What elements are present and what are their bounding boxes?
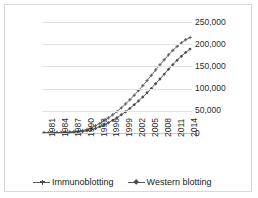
x-axis-tick-label: 2011 bbox=[177, 119, 186, 137]
legend-item-immunoblotting[interactable]: Immunoblotting bbox=[33, 177, 114, 187]
legend-item-western-blotting[interactable]: Western blotting bbox=[128, 177, 212, 187]
x-axis-tick-label: 1984 bbox=[61, 118, 70, 137]
gridline bbox=[42, 22, 192, 23]
x-axis-tick-label: 1987 bbox=[74, 118, 83, 137]
x-axis-tick-label: 1999 bbox=[125, 118, 134, 137]
y-axis-tick-label: 100,000 bbox=[195, 84, 226, 93]
x-axis-tick-label: 2005 bbox=[151, 118, 160, 137]
x-axis-tick-label: 1996 bbox=[112, 118, 121, 137]
x-axis-tick-label: 2014 bbox=[190, 118, 199, 137]
y-axis-tick-labels: 050,000100,000150,000200,000250,000 bbox=[195, 5, 255, 145]
chart-container: 050,000100,000150,000200,000250,000 1981… bbox=[4, 4, 252, 192]
series-lines bbox=[42, 22, 192, 133]
y-axis-tick-label: 50,000 bbox=[195, 106, 221, 115]
y-axis-tick-label: 150,000 bbox=[195, 62, 226, 71]
legend-marker-cross-icon bbox=[33, 178, 50, 187]
legend-label-immunoblotting: Immunoblotting bbox=[52, 177, 114, 187]
x-axis-tick-label: 1990 bbox=[87, 118, 96, 137]
chart-legend: Immunoblotting Western blotting bbox=[33, 174, 233, 190]
gridline bbox=[42, 111, 192, 112]
x-axis-tick-label: 1981 bbox=[48, 118, 57, 137]
gridline bbox=[42, 89, 192, 90]
x-axis-tick-label: 2002 bbox=[138, 118, 147, 137]
x-axis-tick-label: 2008 bbox=[164, 118, 173, 137]
legend-marker-diamond-icon bbox=[128, 178, 145, 187]
y-axis-tick-label: 250,000 bbox=[195, 18, 226, 27]
x-axis-tick-labels: 1981198419871990199319961999200220052008… bbox=[42, 135, 194, 171]
plot-area bbox=[42, 22, 192, 133]
legend-label-western-blotting: Western blotting bbox=[147, 177, 212, 187]
gridline bbox=[42, 44, 192, 45]
y-axis-tick-label: 200,000 bbox=[195, 40, 226, 49]
gridline bbox=[42, 66, 192, 67]
x-axis-tick-label: 1993 bbox=[100, 118, 109, 137]
